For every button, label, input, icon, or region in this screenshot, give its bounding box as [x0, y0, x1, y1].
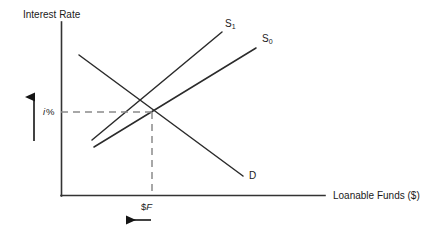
curve-label-s0-letter: S — [262, 33, 269, 44]
y-axis-label: Interest Rate — [23, 10, 80, 20]
equilibrium-quantity-label: $F — [141, 202, 152, 212]
supply-curve-s1 — [92, 32, 222, 140]
curve-label-d: D — [249, 171, 256, 181]
supply-demand-diagram: Interest Rate Loanable Funds ($) S1 S0 D… — [0, 0, 444, 239]
equilibrium-rate-label: i % — [43, 107, 54, 117]
curve-label-s0: S0 — [262, 34, 273, 44]
curve-label-s1: S1 — [225, 19, 236, 29]
demand-curve-d — [79, 55, 243, 176]
equilibrium-rate-unit: % — [46, 106, 54, 117]
curve-label-s1-letter: S — [225, 18, 232, 29]
diagram-canvas — [0, 0, 444, 239]
equilibrium-rate-symbol: i — [43, 106, 45, 117]
equilibrium-quantity-symbol: F — [146, 201, 152, 212]
x-axis-label: Loanable Funds ($) — [333, 191, 420, 201]
curve-label-s1-subscript: 1 — [232, 23, 236, 30]
supply-curve-s0 — [94, 48, 256, 147]
curve-label-s0-subscript: 0 — [269, 38, 273, 45]
